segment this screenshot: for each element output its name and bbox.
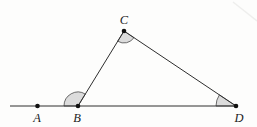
- point-dot-C: [122, 29, 127, 34]
- corner-artifact: [233, 2, 257, 21]
- segment-CD: [124, 31, 236, 106]
- point-label-B: B: [73, 111, 81, 125]
- point-label-C: C: [120, 13, 129, 27]
- diagram-canvas: ABCD: [0, 0, 257, 127]
- point-dot-D: [234, 104, 239, 109]
- point-dot-A: [35, 104, 40, 109]
- geometry-diagram: ABCD: [0, 0, 257, 127]
- segment-BC: [78, 31, 124, 106]
- point-label-D: D: [233, 111, 243, 125]
- point-dot-B: [76, 104, 81, 109]
- point-label-A: A: [32, 111, 41, 125]
